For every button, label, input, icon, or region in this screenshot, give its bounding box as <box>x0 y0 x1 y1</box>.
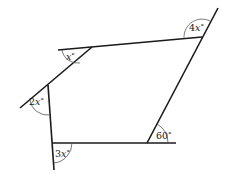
angle-labels: 4x°x°2x°3x°60° <box>29 22 204 159</box>
angle-arcs <box>30 19 210 163</box>
right-edge-extended-line <box>147 8 218 143</box>
angle-coefficient: 60 <box>156 130 168 141</box>
angle-4x-label: 4x° <box>189 22 204 33</box>
angle-60-label: 60° <box>156 130 172 141</box>
degree-symbol: ° <box>71 52 75 60</box>
degree-symbol: ° <box>200 23 204 31</box>
top-edge-line <box>58 37 202 50</box>
left-edge-extended-line <box>48 85 54 170</box>
angle-2x-label: 2x° <box>29 96 44 107</box>
angle-x-label: x° <box>66 51 75 62</box>
pentagon-exterior-angles-diagram: 4x°x°2x°3x°60° <box>0 0 226 180</box>
degree-symbol: ° <box>40 97 44 105</box>
degree-symbol: ° <box>66 149 70 157</box>
degree-symbol: ° <box>168 131 172 139</box>
angle-3x-label: 3x° <box>55 148 70 159</box>
